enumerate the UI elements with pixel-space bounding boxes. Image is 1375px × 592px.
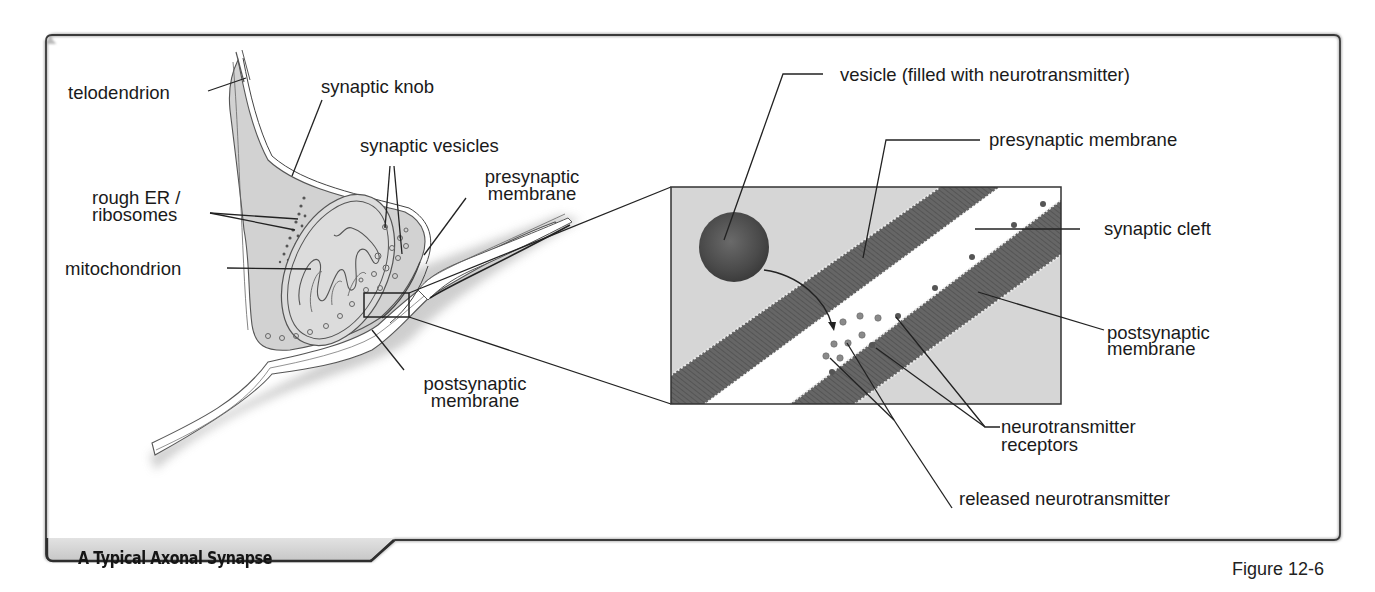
label-rough-er-line2: ribosomes [92,206,177,223]
label-receptors-line2: receptors [1001,436,1078,453]
label-inset-postsynaptic-membrane-line2: membrane [1107,340,1195,357]
inset-vesicle [699,212,769,282]
label-postsynaptic-membrane-line2: membrane [400,392,550,409]
figure-number: Figure 12-6 [1232,559,1324,580]
label-receptors-line1: neurotransmitter [1001,418,1136,435]
label-presynaptic-membrane-line2: membrane [467,185,597,202]
label-synaptic-knob: synaptic knob [321,78,434,95]
label-synaptic-vesicles: synaptic vesicles [360,137,499,154]
label-mitochondrion: mitochondrion [65,260,181,277]
label-vesicle: vesicle (filled with neurotransmitter) [840,66,1130,83]
label-synaptic-cleft: synaptic cleft [1104,220,1211,237]
figure: telodendrion synaptic knob synaptic vesi… [0,0,1375,592]
figure-title: A Typical Axonal Synapse [78,548,272,568]
label-released-neurotransmitter: released neurotransmitter [959,490,1170,507]
axon [418,218,572,300]
magnified-synapse-inset [671,187,1061,404]
label-inset-presynaptic-membrane: presynaptic membrane [989,131,1177,148]
label-telodendrion: telodendrion [68,84,170,101]
